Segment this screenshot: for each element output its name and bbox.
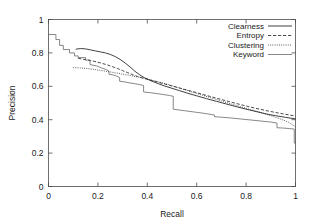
y-tick-label: 0 xyxy=(39,182,44,192)
y-axis-title: Precision xyxy=(7,85,17,120)
chart-legend: ClearnessEntropyClusteringKeyword xyxy=(228,22,292,60)
x-tick-label: 0.4 xyxy=(141,191,153,201)
legend-label-keyword: Keyword xyxy=(233,50,264,59)
series-line-clustering xyxy=(73,68,295,127)
x-axis-title: Recall xyxy=(160,209,184,219)
legend-label-entropy: Entropy xyxy=(236,31,264,40)
x-tick-label: 1 xyxy=(293,191,298,201)
x-tick-label: 0.6 xyxy=(191,191,203,201)
series-line-clearness xyxy=(76,49,296,119)
y-tick-label: 0.6 xyxy=(32,81,44,91)
legend-label-clearness: Clearness xyxy=(228,22,264,31)
x-tick-label: 0 xyxy=(46,191,51,201)
series-line-entropy xyxy=(78,58,295,116)
chart-canvas: 00.20.40.60.81 00.20.40.60.81 Recall Pre… xyxy=(0,0,315,224)
y-tick-label: 0.8 xyxy=(32,48,44,58)
x-tick-label: 0.8 xyxy=(240,191,252,201)
y-tick-label: 0.2 xyxy=(32,148,44,158)
y-tick-label: 0.4 xyxy=(32,115,44,125)
x-tick-label: 0.2 xyxy=(92,191,104,201)
y-tick-label: 1 xyxy=(39,15,44,25)
precision-recall-figure: 00.20.40.60.81 00.20.40.60.81 Recall Pre… xyxy=(0,0,315,224)
legend-label-clustering: Clustering xyxy=(228,41,264,50)
